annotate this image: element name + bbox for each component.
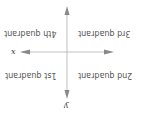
arrow-right-icon (104, 50, 114, 55)
x-axis-label: x (11, 47, 16, 57)
arrow-down-icon (65, 90, 70, 99)
arrow-left-icon (20, 50, 30, 55)
quadrant-diagram: x y 4th quadrant 3rd quadrant 1st quadra… (0, 0, 143, 115)
quadrant-label-4th: 4th quadrant (4, 28, 56, 38)
axes-graphic (0, 0, 143, 115)
quadrant-label-3rd: 3rd quadrant (78, 28, 130, 38)
y-axis-label: y (64, 101, 69, 111)
quadrant-label-1st: 1st quadrant (5, 70, 56, 80)
arrow-up-icon (65, 6, 70, 15)
quadrant-label-2nd: 2nd quadrant (78, 70, 132, 80)
